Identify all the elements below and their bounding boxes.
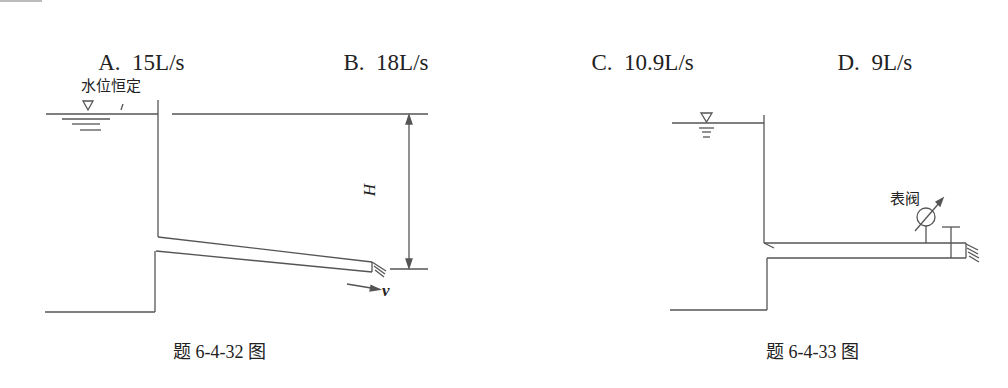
pipe-entrance-edge <box>764 243 774 248</box>
water-level-constant-label: 水位恒定 <box>81 78 141 94</box>
jet-hatch <box>375 270 384 277</box>
velocity-label: v <box>382 281 390 301</box>
dimension-h-label: H <box>360 184 380 196</box>
arrow-down-icon <box>406 259 412 268</box>
diagrams <box>0 0 1008 388</box>
arrow-up-icon <box>406 115 412 124</box>
pipe-bottom-wall <box>156 251 372 272</box>
caption-figure-6-4-33: 题 6-4-33 图 <box>766 341 859 363</box>
pipe-top-wall <box>158 237 372 262</box>
caption-figure-6-4-32: 题 6-4-32 图 <box>173 341 266 363</box>
figure-6-4-33 <box>670 113 979 310</box>
water-level-triangle-icon <box>83 101 93 110</box>
label-leader <box>121 104 123 110</box>
figure-6-4-32 <box>45 100 428 312</box>
gauge-valve-label: 表阀 <box>890 191 920 207</box>
velocity-arrowhead-icon <box>370 286 380 292</box>
water-level-triangle-icon <box>701 113 712 122</box>
